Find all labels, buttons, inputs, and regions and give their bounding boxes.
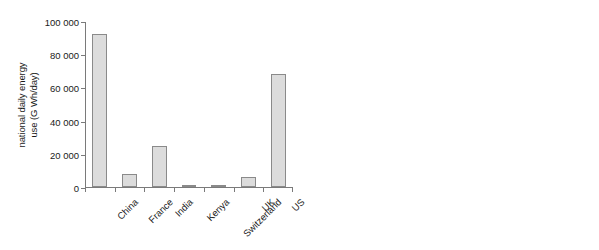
y-axis-title: national daily energy use (G Wh/day) (16, 20, 39, 190)
x-axis-tick-label-china: China (115, 196, 140, 221)
y-axis-tick-label: 40 000 (50, 116, 79, 127)
y-axis-tick (81, 155, 85, 156)
x-axis-tick (263, 188, 264, 192)
bar-india (152, 146, 167, 188)
y-axis-title-line-1: national daily energy (16, 20, 28, 190)
plot-area: 020 00040 00060 00080 000100 000ChinaFra… (85, 22, 293, 188)
bar-france (122, 174, 137, 187)
x-axis-tick (115, 188, 116, 192)
bar-uk (241, 177, 256, 187)
y-axis-tick (81, 88, 85, 89)
x-axis-tick (234, 188, 235, 192)
bar-us (271, 74, 286, 187)
y-axis-tick-label: 20 000 (50, 149, 79, 160)
y-axis-tick-label: 100 000 (45, 17, 79, 28)
bar-switzerland (211, 185, 226, 187)
bar-kenya (182, 185, 197, 187)
bar-china (92, 34, 107, 187)
y-axis-tick (81, 55, 85, 56)
x-axis-tick-label-india: India (173, 196, 195, 218)
chart-panel-daily-energy-use-per-person: daily energy use per person (kWh per per… (300, 0, 599, 250)
y-axis-tick (81, 122, 85, 123)
x-axis-tick (85, 188, 86, 192)
x-axis-tick (292, 188, 293, 192)
x-axis-tick (204, 188, 205, 192)
x-axis-tick (144, 188, 145, 192)
figure-two-bar-charts: national daily energy use (G Wh/day) 020… (0, 0, 599, 250)
x-axis-line (85, 187, 293, 188)
y-axis-tick-label: 60 000 (50, 83, 79, 94)
x-axis-tick-label-kenya: Kenya (204, 196, 231, 223)
y-axis-tick-label: 80 000 (50, 50, 79, 61)
y-axis-title-line-2: use (G Wh/day) (28, 20, 40, 190)
chart-panel-national-daily-energy-use: national daily energy use (G Wh/day) 020… (0, 0, 300, 250)
y-axis-line (85, 22, 86, 188)
x-axis-tick (174, 188, 175, 192)
x-axis-tick-label-france: France (146, 196, 175, 225)
y-axis-tick-label: 0 (74, 183, 79, 194)
y-axis-tick (81, 22, 85, 23)
